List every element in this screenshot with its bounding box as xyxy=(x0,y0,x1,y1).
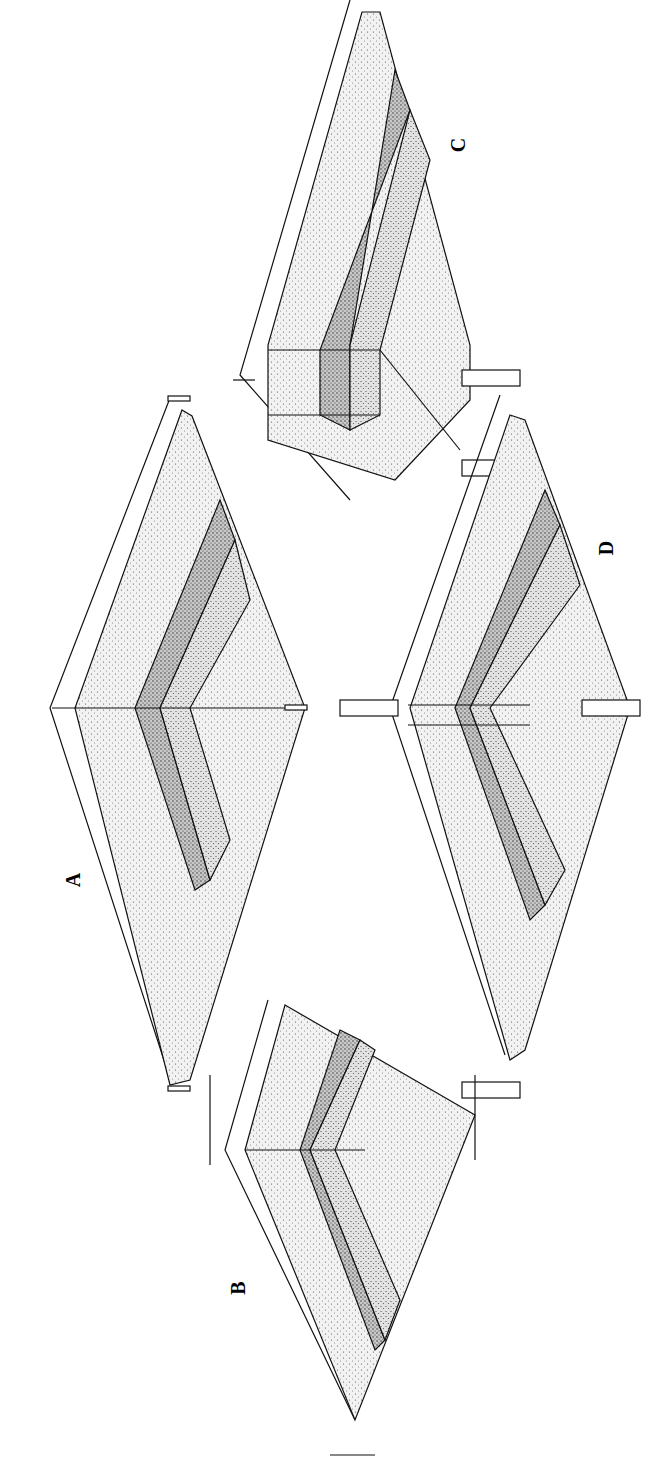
label-d: D xyxy=(595,541,617,555)
label-a: A xyxy=(62,872,84,887)
layered-isometric-figure: A B C D xyxy=(0,0,653,1481)
panel-d xyxy=(340,370,640,1098)
label-b: B xyxy=(227,1281,249,1294)
panel-a xyxy=(50,396,307,1091)
panel-c xyxy=(233,0,520,500)
panel-b xyxy=(210,1000,475,1455)
label-c: C xyxy=(447,138,469,152)
